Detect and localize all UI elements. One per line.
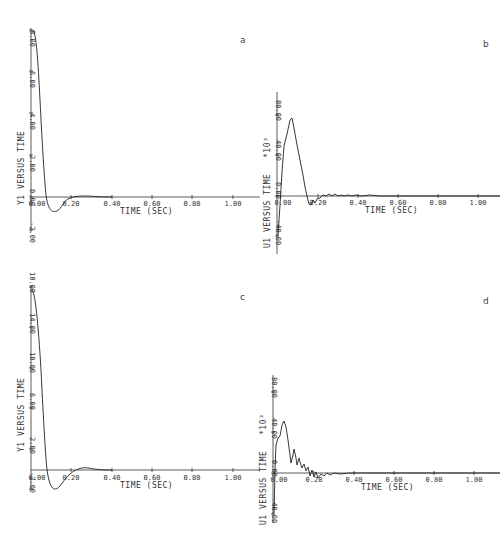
ytick-a-2: 4.00 bbox=[28, 113, 36, 130]
series-line-a bbox=[33, 30, 112, 212]
xtick-b-2: 0.40 bbox=[350, 199, 367, 207]
ytick-a-1: 6.00 bbox=[28, 71, 36, 88]
ytick-d-0: 80.00 bbox=[270, 377, 278, 398]
ytick-a-3: 2.00 bbox=[28, 155, 36, 172]
ylabel-a: Y1 VERSUS TIME bbox=[17, 131, 26, 205]
panel-d: d 80.00 40.00 0.00 -40.00 U1 VERSUS TIME… bbox=[259, 296, 500, 525]
panel-label-d: d bbox=[483, 296, 489, 306]
figure-canvas: a 8.00 6.00 4.00 2.00 0.00 -2.00 Y1 VERS… bbox=[0, 0, 504, 539]
xtick-b-0: 0.00 bbox=[275, 199, 292, 207]
series-line-b bbox=[278, 118, 500, 236]
xtick-c-2: 0.40 bbox=[104, 474, 121, 482]
panel-label-b: b bbox=[483, 39, 489, 49]
xtick-c-5: 1.00 bbox=[225, 474, 242, 482]
panel-label-c: c bbox=[240, 292, 245, 302]
ylabel-c: Y1 VERSUS TIME bbox=[17, 378, 26, 452]
ytick-d-1: 40.00 bbox=[270, 418, 278, 439]
ylabel-b: U1 VERSUS TIME bbox=[263, 174, 272, 248]
xtick-b-4: 0.80 bbox=[430, 199, 447, 207]
ytick-b-1: 40.00 bbox=[274, 140, 282, 161]
yunit-d: *10³ bbox=[259, 414, 268, 435]
panel-label-a: a bbox=[240, 35, 246, 45]
series-line-d bbox=[274, 421, 500, 514]
ytick-d-2: 0.00 bbox=[270, 460, 278, 477]
ytick-b-0: 80.00 bbox=[274, 100, 282, 121]
ytick-a-5: -2.00 bbox=[28, 222, 36, 243]
xtick-a-5: 1.00 bbox=[225, 200, 242, 208]
xtick-d-2: 0.40 bbox=[346, 476, 363, 484]
xlabel-d: TIME (SEC) bbox=[361, 483, 414, 492]
series-line-c bbox=[32, 290, 112, 489]
yunit-b: *10³ bbox=[263, 137, 272, 158]
xtick-a-0: 0.00 bbox=[29, 200, 46, 208]
ylabel-d: U1 VERSUS TIME bbox=[259, 451, 268, 525]
xtick-c-4: 0.80 bbox=[184, 474, 201, 482]
panel-b: b 80.00 40.00 0.00 -40.00 U1 VERSUS TIME… bbox=[263, 39, 500, 254]
xtick-b-5: 1.00 bbox=[470, 199, 487, 207]
panel-c: c 18.00 14.00 10.00 6.00 2.00 -2.00 Y1 V… bbox=[17, 272, 260, 493]
ytick-a-0: 8.00 bbox=[28, 30, 36, 47]
xlabel-a: TIME (SEC) bbox=[120, 207, 173, 216]
xtick-a-4: 0.80 bbox=[184, 200, 201, 208]
xtick-d-0: 0.00 bbox=[271, 476, 288, 484]
ytick-c-0: 18.00 bbox=[28, 272, 36, 293]
ytick-c-4: 2.00 bbox=[28, 437, 36, 454]
panel-a: a 8.00 6.00 4.00 2.00 0.00 -2.00 Y1 VERS… bbox=[17, 28, 260, 243]
xtick-a-2: 0.40 bbox=[104, 200, 121, 208]
xtick-d-5: 1.00 bbox=[466, 476, 483, 484]
ytick-c-3: 6.00 bbox=[28, 393, 36, 410]
xtick-c-0: 0.00 bbox=[29, 474, 46, 482]
xlabel-b: TIME (SEC) bbox=[365, 206, 418, 215]
ytick-c-1: 14.00 bbox=[28, 313, 36, 334]
ytick-c-2: 10.00 bbox=[28, 352, 36, 373]
xlabel-c: TIME (SEC) bbox=[120, 481, 173, 490]
xtick-c-1: 0.20 bbox=[63, 474, 80, 482]
xtick-d-4: 0.80 bbox=[426, 476, 443, 484]
